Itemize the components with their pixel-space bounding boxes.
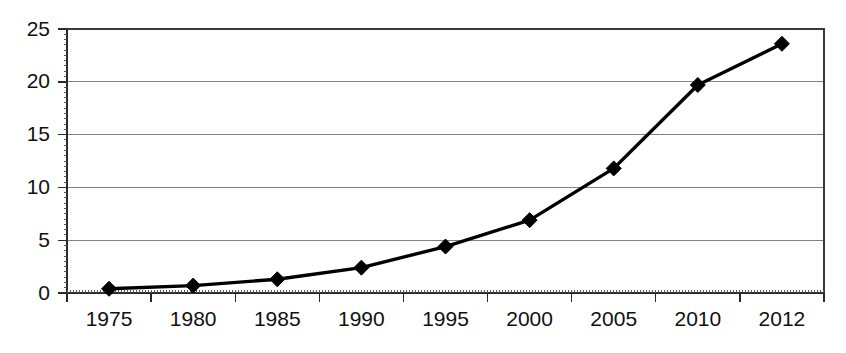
x-tick-label: 1995 xyxy=(422,307,469,330)
x-tick-label: 2000 xyxy=(506,307,553,330)
y-tick-label: 10 xyxy=(27,175,50,198)
y-tick-label: 25 xyxy=(27,17,50,40)
x-tick-label: 2010 xyxy=(674,307,721,330)
x-tick-label: 2005 xyxy=(590,307,637,330)
y-tick-label: 20 xyxy=(27,69,50,92)
x-tick-label: 1990 xyxy=(338,307,385,330)
y-tick-label: 15 xyxy=(27,122,50,145)
y-tick-label: 0 xyxy=(38,281,50,304)
x-axis-tick-labels: 197519801985199019952000200520102012 xyxy=(86,307,806,330)
chart-canvas: 0510152025 19751980198519901995200020052… xyxy=(0,0,846,353)
chart-background xyxy=(0,0,846,353)
x-tick-label: 1985 xyxy=(254,307,301,330)
line-chart: 0510152025 19751980198519901995200020052… xyxy=(0,0,846,353)
y-tick-label: 5 xyxy=(38,228,50,251)
x-tick-label: 1975 xyxy=(86,307,133,330)
x-tick-label: 2012 xyxy=(759,307,806,330)
x-tick-label: 1980 xyxy=(170,307,217,330)
